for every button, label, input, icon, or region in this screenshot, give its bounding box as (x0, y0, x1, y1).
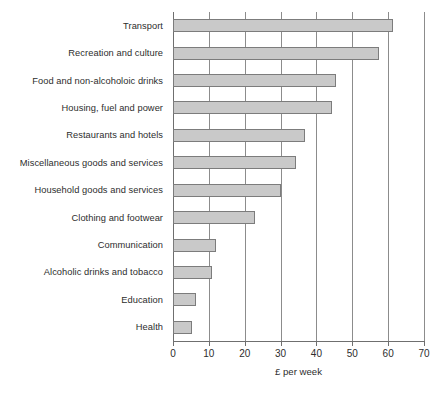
bar (173, 293, 196, 306)
x-tick-label: 70 (404, 348, 444, 359)
category-label: Restaurants and hotels (0, 130, 163, 140)
x-tick (281, 341, 282, 346)
y-axis-line (173, 12, 174, 341)
gridline-10 (209, 12, 210, 341)
bar (173, 156, 296, 169)
bar (173, 266, 212, 279)
x-tick (209, 341, 210, 346)
category-label-column: TransportRecreation and cultureFood and … (0, 12, 168, 341)
x-tick-label: 10 (189, 348, 229, 359)
bar (173, 19, 393, 32)
bar (173, 101, 332, 114)
category-label: Transport (0, 21, 163, 31)
gridline-50 (352, 12, 353, 341)
gridline-70 (424, 12, 425, 341)
x-tick (316, 341, 317, 346)
x-tick-label: 0 (153, 348, 193, 359)
category-label: Education (0, 295, 163, 305)
x-tick (245, 341, 246, 346)
x-tick-label: 40 (296, 348, 336, 359)
category-label: Food and non-alcoholoic drinks (0, 76, 163, 86)
x-tick-label: 20 (225, 348, 265, 359)
x-tick-label: 60 (368, 348, 408, 359)
bar (173, 74, 336, 87)
bar-chart: TransportRecreation and cultureFood and … (0, 0, 444, 394)
x-tick (424, 341, 425, 346)
plot-area (173, 12, 424, 341)
bar (173, 184, 281, 197)
category-label: Health (0, 322, 163, 332)
gridline-40 (316, 12, 317, 341)
category-label: Alcoholic drinks and tobacco (0, 267, 163, 277)
gridline-20 (245, 12, 246, 341)
category-label: Clothing and footwear (0, 213, 163, 223)
category-label: Miscellaneous goods and services (0, 158, 163, 168)
x-tick (173, 341, 174, 346)
x-tick-label: 50 (332, 348, 372, 359)
x-tick (388, 341, 389, 346)
x-tick-label: 30 (261, 348, 301, 359)
bar (173, 321, 192, 334)
category-label: Housing, fuel and power (0, 103, 163, 113)
category-label: Recreation and culture (0, 48, 163, 58)
gridline-30 (281, 12, 282, 341)
gridline-60 (388, 12, 389, 341)
bar (173, 211, 255, 224)
category-label: Communication (0, 240, 163, 250)
bar (173, 239, 216, 252)
x-axis-title: £ per week (173, 366, 424, 377)
bar (173, 47, 379, 60)
bar (173, 129, 305, 142)
x-axis-line (173, 341, 424, 342)
x-tick (352, 341, 353, 346)
category-label: Household goods and services (0, 185, 163, 195)
